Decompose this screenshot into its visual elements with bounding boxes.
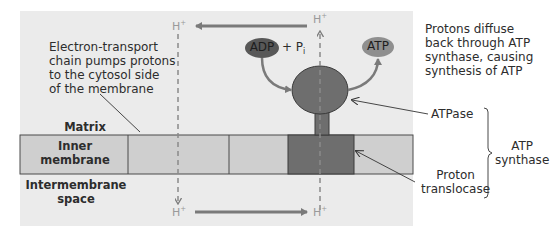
proton-label-bottom-left: H+ <box>172 205 186 219</box>
etc-note-line: of the membrane <box>49 82 175 96</box>
diffuse-note-line: back through ATP <box>425 36 533 50</box>
etc-annotation: Electron-transport chain pumps protons t… <box>49 40 175 96</box>
intermembrane-line: Intermembrane <box>22 178 130 192</box>
diffuse-note-line: synthase, causing <box>425 50 533 64</box>
proton-label-top-left: H+ <box>172 19 186 33</box>
atp-synthase-stalk <box>315 112 329 135</box>
translocase-line: translocase <box>421 182 490 196</box>
atpase-to-atp-arrow <box>348 59 378 90</box>
proton-label-top-right: H+ <box>313 12 327 26</box>
diffuse-annotation: Protons diffuse back through ATP synthas… <box>425 22 533 78</box>
adp-to-atpase-arrow <box>262 58 291 90</box>
atpase-label: ATPase <box>431 107 473 121</box>
etc-note-line: to the cytosol side <box>49 68 175 82</box>
atp-label: ATP <box>362 39 394 53</box>
atp-synthase-label: ATP synthase <box>495 139 549 167</box>
atp-synthase-line: ATP <box>495 139 549 153</box>
translocase-line: Proton <box>421 168 490 182</box>
pi-label: + Pi <box>282 40 305 56</box>
etc-note-line: Electron-transport <box>49 40 175 54</box>
proton-label-bottom-right: H+ <box>313 205 327 219</box>
inner-membrane-label: Inner membrane <box>22 139 128 167</box>
atp-synthase-line: synthase <box>495 153 549 167</box>
inner-membrane-line: Inner <box>22 139 128 153</box>
atpase-pointer <box>352 100 428 114</box>
diffuse-note-line: Protons diffuse <box>425 22 533 36</box>
proton-translocase-shape <box>288 135 354 174</box>
intermembrane-line: space <box>22 192 130 206</box>
proton-translocase-label: Proton translocase <box>421 168 490 196</box>
etc-note-line: chain pumps protons <box>49 54 175 68</box>
matrix-label: Matrix <box>40 120 130 134</box>
diffuse-note-line: synthesis of ATP <box>425 64 533 78</box>
adp-label: ADP <box>245 40 279 54</box>
intermembrane-label: Intermembrane space <box>22 178 130 206</box>
inner-membrane-line: membrane <box>22 153 128 167</box>
